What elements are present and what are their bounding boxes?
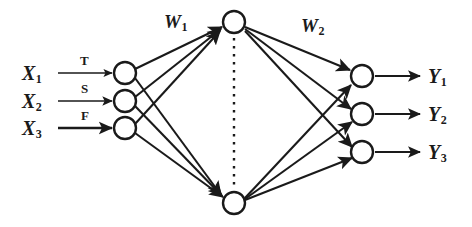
input-label-x3: X3 (22, 118, 42, 140)
node-x1 (114, 62, 136, 84)
output-label-y1-subscript: 1 (441, 75, 447, 89)
weight-label-w1-subscript: 1 (181, 20, 187, 34)
weight-label-w2: W2 (301, 16, 324, 37)
weight-edges-w2 (245, 27, 352, 200)
output-label-y3-text: Y (428, 141, 440, 163)
edge-x2-hn (135, 106, 222, 196)
output-label-y1-text: Y (428, 65, 440, 87)
node-y3 (351, 141, 373, 163)
edge-h1-y2 (245, 29, 351, 109)
node-x3 (114, 117, 136, 139)
output-label-y3: Y3 (428, 142, 447, 164)
output-label-y3-subscript: 3 (441, 151, 447, 165)
input-label-x3-text: X (22, 117, 35, 139)
input-label-x1-subscript: 1 (36, 72, 42, 86)
output-label-y2: Y2 (428, 104, 447, 126)
edge-hn-y2 (245, 122, 352, 199)
weight-label-w1-text: W (164, 11, 181, 32)
input-layer-nodes (114, 62, 136, 139)
input-edge-label-s: S (81, 82, 88, 95)
input-label-x2-text: X (22, 90, 35, 112)
edge-hn-y3 (245, 158, 352, 200)
edge-x1-hn (135, 78, 221, 195)
edge-x3-hn (135, 133, 223, 197)
input-label-x1-text: X (22, 62, 35, 84)
node-y1 (351, 65, 373, 87)
input-label-x2: X2 (22, 91, 42, 113)
node-hidden-first (223, 11, 245, 33)
weight-label-w1: W1 (164, 12, 187, 33)
output-result-arrows (375, 76, 420, 152)
input-edge-label-t: T (80, 54, 89, 67)
output-label-y2-text: Y (428, 103, 440, 125)
weight-label-w2-subscript: 2 (318, 24, 324, 38)
output-label-y1: Y1 (428, 66, 447, 88)
edge-hn-y1 (245, 85, 351, 198)
node-x2 (114, 90, 136, 112)
edge-x3-h1 (135, 31, 220, 124)
input-label-x3-subscript: 3 (36, 127, 42, 141)
weight-label-w2-text: W (301, 15, 318, 36)
input-label-x1: X1 (22, 63, 42, 85)
input-edge-label-f: F (81, 109, 89, 122)
weight-edges-w1 (135, 27, 223, 197)
input-label-x2-subscript: 2 (36, 100, 42, 114)
output-layer-nodes (351, 65, 373, 163)
output-label-y2-subscript: 2 (441, 113, 447, 127)
neural-network-diagram: X1 X2 X3 T S F W1 W2 Y1 Y2 Y3 (0, 0, 472, 227)
node-y2 (351, 103, 373, 125)
network-graph-canvas (0, 0, 472, 227)
node-hidden-last (223, 192, 245, 214)
